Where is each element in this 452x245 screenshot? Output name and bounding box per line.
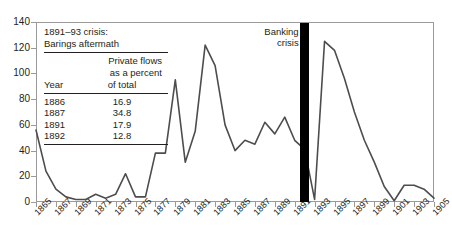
inset-header-line1: Private flows (44, 55, 168, 67)
inset-cell-year: 1887 (44, 107, 86, 119)
banking-crisis-bar (300, 23, 309, 202)
banking-crisis-label: Banking crisis (241, 26, 299, 48)
inset-title-line2: Barings aftermath (44, 38, 168, 50)
inset-rule-mid (44, 93, 168, 94)
inset-rule-top (44, 52, 168, 53)
inset-rows: 188616.9188734.8189117.9189212.8 (44, 96, 168, 142)
banking-crisis-label-line2: crisis (241, 37, 299, 48)
inset-cell-value: 12.8 (86, 130, 168, 142)
inset-cell-value: 16.9 (86, 96, 168, 108)
inset-data-row: 188734.8 (44, 107, 168, 119)
inset-title-line1: 1891–93 crisis: (44, 26, 168, 38)
inset-header-line2: as a percent (44, 67, 168, 79)
inset-data-table: Year of total (44, 79, 168, 91)
banking-crisis-label-line1: Banking (241, 26, 299, 37)
inset-cell-year: 1891 (44, 119, 86, 131)
inset-table: 1891–93 crisis: Barings aftermath Privat… (44, 26, 168, 147)
inset-rule-bottom (44, 144, 168, 145)
inset-col-year: Year (44, 79, 86, 91)
inset-cell-value: 34.8 (86, 107, 168, 119)
inset-cell-year: 1886 (44, 96, 86, 108)
inset-data-row: 189212.8 (44, 130, 168, 142)
inset-cell-value: 17.9 (86, 119, 168, 131)
inset-col-value: of total (86, 79, 168, 91)
inset-data-row: 188616.9 (44, 96, 168, 108)
inset-data-row: 189117.9 (44, 119, 168, 131)
inset-cell-year: 1892 (44, 130, 86, 142)
inset-header-row: Year of total (44, 79, 168, 91)
